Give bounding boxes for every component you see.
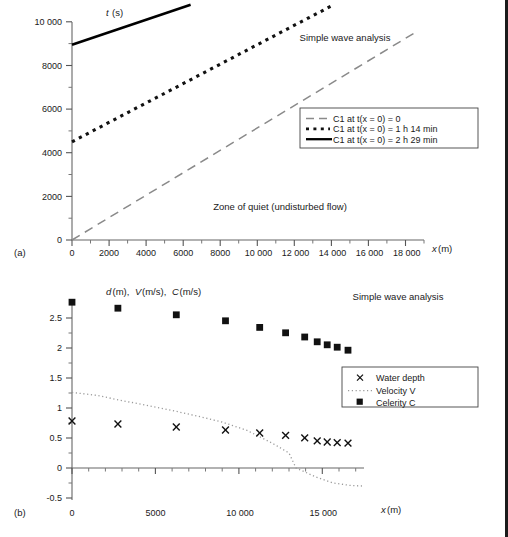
- panel-a-annotation-zone-of-quiet: Zone of quiet (undisturbed flow): [213, 201, 347, 212]
- svg-text:x: x: [431, 243, 438, 254]
- celerity-marker: [345, 347, 352, 354]
- svg-text:(m): (m): [387, 504, 401, 515]
- celerity-marker: [282, 329, 289, 336]
- water-depth-marker: [222, 427, 229, 434]
- panel-b-series-celerity: [69, 299, 352, 354]
- celerity-marker: [314, 338, 321, 345]
- panel-b-series-water-depth: [69, 418, 352, 447]
- panel-b-xtick-label: 15 000: [310, 508, 338, 518]
- panel-b-x-ticks: [72, 468, 356, 474]
- panel-a-xtick-label: 2000: [99, 248, 119, 258]
- svg-text:(m/s): (m/s): [180, 286, 202, 297]
- panel-b-legend-label: Celerity C: [376, 398, 416, 408]
- panel-a-xtick-label: 16 000: [356, 248, 384, 258]
- celerity-marker: [334, 344, 341, 351]
- celerity-marker: [324, 341, 331, 348]
- panel-b-ytick-label: 0.5: [49, 433, 62, 443]
- celerity-marker: [115, 305, 122, 312]
- panel-a-x-ticks: [72, 240, 424, 246]
- panel-b-ytick-label: 2: [57, 343, 62, 353]
- panel-b-ytick-label: 1: [57, 403, 62, 413]
- panel-b-x-axis-title: x (m): [380, 504, 401, 515]
- panel-a-xtick-label: 14 000: [319, 248, 347, 258]
- figure-container: 0 2000 4000 6000 8000 10 000: [0, 0, 508, 537]
- panel-b-xtick-label: 0: [69, 508, 74, 518]
- panel-a-title: Simple wave analysis: [300, 32, 391, 43]
- panel-a-legend-label: C1 at t(x = 0) = 0: [333, 114, 401, 124]
- panel-a-x-axis-title: x (m): [431, 243, 452, 254]
- water-depth-marker: [301, 434, 308, 441]
- panel-b: 2.5 2 1.5 1 0.5 0 -0.5 0 5: [14, 286, 478, 518]
- water-depth-marker: [173, 424, 180, 431]
- panel-b-ytick-label: 0: [57, 463, 62, 473]
- panel-a-xtick-label: 4000: [136, 248, 156, 258]
- panel-a: 0 2000 4000 6000 8000 10 000: [14, 5, 478, 258]
- svg-text:(m): (m): [438, 243, 452, 254]
- panel-a-legend-label: C1 at t(x = 0) = 1 h 14 min: [333, 124, 438, 134]
- celerity-marker: [173, 311, 180, 318]
- panel-a-ytick-label: 10 000: [34, 17, 62, 27]
- panel-b-xtick-label: 10 000: [226, 508, 254, 518]
- panel-a-ytick-label: 2000: [42, 192, 62, 202]
- svg-text:(s): (s): [112, 7, 123, 18]
- panel-b-y-axis-title: d (m), V (m/s), C (m/s): [106, 286, 201, 297]
- panel-a-legend: C1 at t(x = 0) = 0 C1 at t(x = 0) = 1 h …: [300, 108, 478, 148]
- figure-svg: 0 2000 4000 6000 8000 10 000: [0, 0, 508, 537]
- panel-a-series-c1-t1h14: [72, 6, 332, 142]
- water-depth-marker: [345, 440, 352, 447]
- panel-a-series-c1-t2h29: [72, 5, 191, 45]
- panel-a-xtick-label: 6000: [173, 248, 193, 258]
- celerity-marker: [69, 299, 76, 306]
- svg-text:(m),: (m),: [113, 286, 130, 297]
- panel-a-xtick-label: 12 000: [282, 248, 310, 258]
- celerity-marker: [222, 317, 229, 324]
- panel-a-label: (a): [14, 247, 26, 258]
- panel-a-xtick-label: 18 000: [393, 248, 421, 258]
- svg-text:t: t: [106, 7, 109, 18]
- svg-text:x: x: [380, 504, 387, 515]
- panel-b-label: (b): [14, 507, 26, 518]
- panel-b-ytick-label: 1.5: [49, 373, 62, 383]
- panel-a-ytick-label: 0: [57, 235, 62, 245]
- panel-b-title: Simple wave analysis: [353, 291, 444, 302]
- panel-a-xtick-label: 0: [69, 248, 74, 258]
- panel-a-y-ticks: [66, 22, 72, 240]
- panel-a-xtick-label: 10 000: [245, 248, 273, 258]
- panel-a-y-axis-title: t (s): [106, 7, 123, 18]
- panel-b-legend-label: Water depth: [376, 373, 425, 383]
- panel-b-y-ticks: [66, 318, 72, 498]
- water-depth-marker: [115, 421, 122, 428]
- water-depth-marker: [334, 439, 341, 446]
- water-depth-marker: [324, 439, 331, 446]
- svg-text:C: C: [172, 286, 179, 297]
- panel-b-legend-swatch-square: [357, 399, 363, 405]
- water-depth-marker: [256, 430, 263, 437]
- water-depth-marker: [282, 432, 289, 439]
- celerity-marker: [301, 334, 308, 341]
- panel-a-ytick-label: 8000: [42, 61, 62, 71]
- celerity-marker: [256, 324, 263, 331]
- panel-a-xtick-label: 8000: [210, 248, 230, 258]
- panel-a-ytick-label: 6000: [42, 104, 62, 114]
- panel-a-ytick-label: 4000: [42, 148, 62, 158]
- water-depth-marker: [314, 437, 321, 444]
- svg-text:(m/s),: (m/s),: [142, 286, 166, 297]
- panel-b-xtick-label: 5000: [145, 508, 165, 518]
- panel-b-legend-label: Velocity V: [376, 386, 416, 396]
- panel-b-ytick-label: -0.5: [46, 493, 62, 503]
- panel-b-legend: Water depth Velocity V Celerity C: [342, 367, 478, 408]
- panel-a-legend-label: C1 at t(x = 0) = 2 h 29 min: [333, 135, 438, 145]
- svg-text:d: d: [106, 286, 112, 297]
- panel-b-ytick-label: 2.5: [49, 313, 62, 323]
